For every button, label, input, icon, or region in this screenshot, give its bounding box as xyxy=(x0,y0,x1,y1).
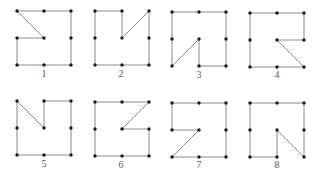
figure-8 xyxy=(248,101,305,158)
grid-dot xyxy=(224,101,227,104)
grid-dot xyxy=(224,37,227,40)
grid-dot xyxy=(42,153,45,156)
figure-7 xyxy=(170,101,227,158)
grid-dot xyxy=(170,101,173,104)
grid-dot xyxy=(69,9,72,12)
grid-dot xyxy=(15,36,18,39)
grid-dot xyxy=(42,36,45,39)
grid-dot xyxy=(15,126,18,129)
grid-dot xyxy=(147,63,150,66)
grid-dot xyxy=(147,100,150,103)
figure-1 xyxy=(15,9,72,66)
figure-label-7: 7 xyxy=(189,160,209,170)
grid-dot xyxy=(248,38,251,41)
grid-dot xyxy=(15,99,18,102)
grid-dot xyxy=(302,11,305,14)
grid-dot xyxy=(302,38,305,41)
grid-dot xyxy=(170,128,173,131)
grid-dot xyxy=(170,10,173,13)
grid-dot xyxy=(147,154,150,157)
figure-label-5: 5 xyxy=(34,159,54,169)
figure-3 xyxy=(170,10,227,67)
grid-dot xyxy=(42,9,45,12)
grid-dot xyxy=(15,153,18,156)
grid-dot xyxy=(93,9,96,12)
grid-dot xyxy=(147,36,150,39)
grid-dot xyxy=(69,126,72,129)
grid-dot xyxy=(224,64,227,67)
figure-4 xyxy=(248,11,305,68)
grid-dot xyxy=(93,100,96,103)
grid-dot xyxy=(93,127,96,130)
grid-dot xyxy=(170,37,173,40)
grid-dot xyxy=(120,154,123,157)
grid-dot xyxy=(248,11,251,14)
figure-6 xyxy=(93,100,150,157)
grid-dot xyxy=(42,99,45,102)
grid-dot xyxy=(170,64,173,67)
grid-dot xyxy=(120,100,123,103)
grid-dot xyxy=(197,64,200,67)
grid-dot xyxy=(197,37,200,40)
figure-label-8: 8 xyxy=(267,160,287,170)
grid-dot xyxy=(248,65,251,68)
grid-dot xyxy=(275,11,278,14)
grid-dot xyxy=(120,127,123,130)
grid-dot xyxy=(275,101,278,104)
grid-dot xyxy=(69,36,72,39)
grid-dot xyxy=(69,99,72,102)
grid-dot xyxy=(224,128,227,131)
grid-dot xyxy=(69,153,72,156)
grid-dot xyxy=(93,154,96,157)
grid-dot xyxy=(248,155,251,158)
figure-label-6: 6 xyxy=(111,160,131,170)
grid-dot xyxy=(302,101,305,104)
grid-dot xyxy=(15,9,18,12)
grid-dot xyxy=(302,155,305,158)
figure-2 xyxy=(93,9,150,66)
grid-dot xyxy=(120,9,123,12)
grid-dot xyxy=(15,63,18,66)
grid-dot xyxy=(69,63,72,66)
grid-dot xyxy=(248,101,251,104)
grid-dot xyxy=(197,10,200,13)
grid-dot xyxy=(147,9,150,12)
figure-label-4: 4 xyxy=(267,70,287,80)
grid-dot xyxy=(93,36,96,39)
grid-dot xyxy=(302,128,305,131)
grid-dot xyxy=(224,10,227,13)
figure-label-1: 1 xyxy=(34,69,54,79)
grid-dot xyxy=(302,65,305,68)
figure-label-3: 3 xyxy=(189,70,209,80)
grid-dot xyxy=(248,128,251,131)
figure-5 xyxy=(15,99,72,156)
grid-dot xyxy=(42,63,45,66)
grid-dot xyxy=(147,127,150,130)
grid-dot xyxy=(275,38,278,41)
grid-dot xyxy=(275,128,278,131)
grid-dot xyxy=(224,155,227,158)
grid-dot xyxy=(120,36,123,39)
grid-dot xyxy=(197,101,200,104)
grid-dot xyxy=(170,155,173,158)
grid-dot xyxy=(93,63,96,66)
figure-label-2: 2 xyxy=(111,69,131,79)
figures-canvas xyxy=(0,0,320,178)
grid-dot xyxy=(120,63,123,66)
grid-dot xyxy=(42,126,45,129)
grid-dot xyxy=(197,128,200,131)
